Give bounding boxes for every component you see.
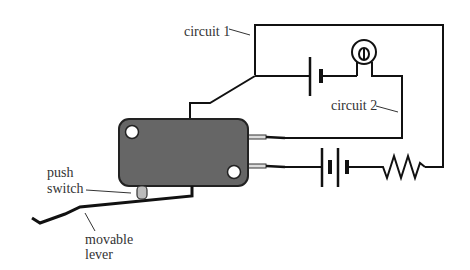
- common-wire: [190, 76, 255, 118]
- battery-1cell: [310, 57, 321, 96]
- push-switch: [137, 186, 147, 199]
- battery-2cell: [322, 148, 347, 187]
- label-circuit-2: circuit 2: [331, 98, 377, 113]
- resistor-icon: [378, 156, 425, 178]
- label-lever-2: lever: [85, 247, 113, 262]
- label-push-switch-1: push: [47, 165, 73, 180]
- circuit-1-wire: [255, 25, 443, 167]
- switch-terminals: [248, 135, 285, 168]
- label-circuit-1: circuit 1: [184, 24, 230, 39]
- mount-hole: [126, 126, 139, 139]
- circuit-diagram: circuit 1 circuit 2 push switch movable …: [0, 0, 470, 270]
- bulb-icon: [352, 40, 376, 64]
- label-lever-1: movable: [85, 232, 133, 247]
- mount-hole: [228, 166, 241, 179]
- label-push-switch-2: switch: [47, 181, 84, 196]
